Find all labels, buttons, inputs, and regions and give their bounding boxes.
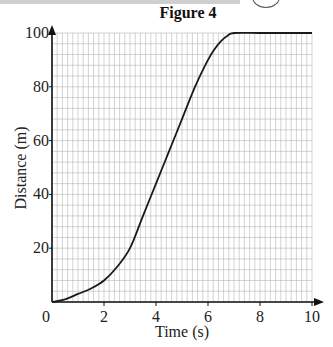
y-tick-label: 20	[33, 239, 49, 256]
y-axis-label: Distance (m)	[12, 126, 30, 209]
x-axis-arrow	[314, 298, 324, 306]
y-tick-label: 100	[25, 24, 49, 41]
grid	[52, 33, 312, 302]
distance-time-chart: 024681020406080100 Figure 4 Time (s) Dis…	[0, 0, 333, 347]
x-tick-label: 0	[42, 308, 50, 325]
axes	[48, 25, 324, 306]
x-tick-label: 8	[256, 308, 264, 325]
chart-title: Figure 4	[159, 4, 216, 22]
y-tick-label: 80	[33, 78, 49, 95]
x-axis-label: Time (s)	[155, 323, 209, 341]
y-tick-label: 40	[33, 185, 49, 202]
x-tick-label: 10	[304, 308, 320, 325]
y-tick-label: 60	[33, 132, 49, 149]
x-tick-label: 2	[100, 308, 108, 325]
